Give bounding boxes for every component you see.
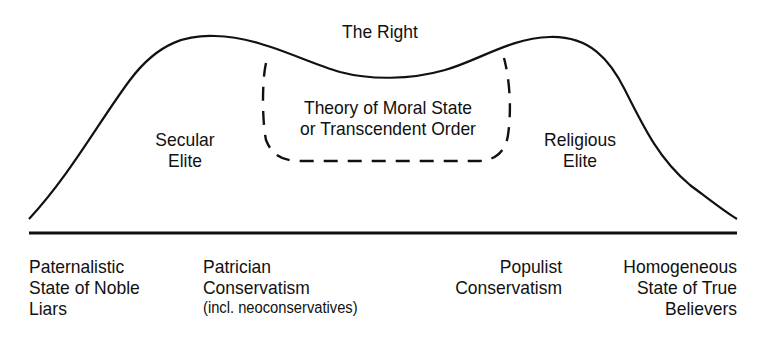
axis-label-paternalistic: Paternalistic State of Noble Liars <box>29 256 140 319</box>
label-line: Elite <box>525 150 635 171</box>
label-line: Conservatism <box>203 277 358 298</box>
religious-elite-label: Religious Elite <box>525 129 635 171</box>
label-line: Religious <box>525 129 635 150</box>
label-line: Homogeneous <box>602 256 737 277</box>
label-line: Theory of Moral State <box>278 97 499 118</box>
label-line: Elite <box>134 150 235 171</box>
axis-label-homogeneous: Homogeneous State of True Believers <box>602 256 737 319</box>
axis-label-patrician: Patrician Conservatism (incl. neoconserv… <box>203 256 358 318</box>
label-line: State of Noble <box>29 277 140 298</box>
center-theory-label: Theory of Moral State or Transcendent Or… <box>278 97 499 139</box>
secular-elite-label: Secular Elite <box>134 129 235 171</box>
label-line: Conservatism <box>431 277 562 298</box>
diagram-title: The Right <box>325 21 435 42</box>
label-line: or Transcendent Order <box>278 118 499 139</box>
axis-label-populist: Populist Conservatism <box>431 256 562 298</box>
label-line: Believers <box>602 298 737 319</box>
label-line: State of True <box>602 277 737 298</box>
label-line: Populist <box>431 256 562 277</box>
label-line: Patrician <box>203 256 358 277</box>
label-line: (incl. neoconservatives) <box>203 298 358 318</box>
label-line: Paternalistic <box>29 256 140 277</box>
label-line: Liars <box>29 298 140 319</box>
label-line: Secular <box>134 129 235 150</box>
